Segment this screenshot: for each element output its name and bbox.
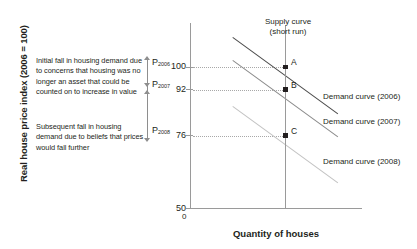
equilibrium-label-a: A [291,57,297,67]
equilibrium-point-b [283,87,288,92]
x-axis-line [190,208,362,209]
origin-label: 0 [182,212,186,221]
y-axis-line [190,23,191,209]
y-tick-50 [186,208,193,209]
y-tick-label-92: 92 [160,84,186,94]
y-tick-label-76: 76 [160,130,186,140]
supply-curve-line [285,25,286,209]
demand-curve-2007-label: Demand curve (2007) [323,117,400,126]
y-tick-label-100: 100 [160,61,186,71]
equilibrium-point-a [283,65,288,70]
supply-curve-label-line2: (short run) [252,27,324,37]
equilibrium-label-c: C [291,126,297,136]
equilibrium-label-b: B [291,80,297,90]
plot-area: 100 92 76 50 Supply curve (short run) A … [0,0,417,249]
x-axis-title: Quantity of houses [190,228,362,239]
y-tick-76 [186,135,193,136]
y-tick-100 [186,67,193,68]
equilibrium-point-c [283,133,288,138]
supply-curve-label-line1: Supply curve [252,17,324,27]
housing-supply-demand-figure: Real house price index (2006 = 100) Init… [0,0,417,249]
demand-curve-2006-label: Demand curve (2006) [323,92,400,101]
supply-curve-label: Supply curve (short run) [252,17,324,37]
y-tick-92 [186,89,193,90]
demand-curve-2008-label: Demand curve (2008) [323,157,400,166]
y-tick-label-50: 50 [160,203,186,213]
